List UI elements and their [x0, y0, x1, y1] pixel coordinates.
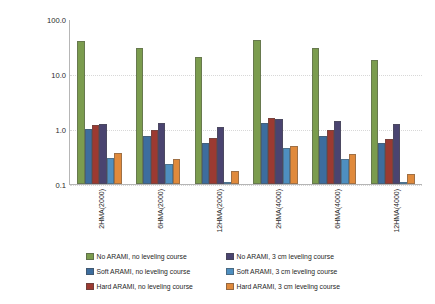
bar — [400, 182, 407, 184]
bar-group — [187, 20, 246, 184]
bar — [165, 164, 172, 184]
bar-group — [70, 20, 129, 184]
x-axis-tick-label-text: 6HMA(2000) — [157, 189, 164, 229]
bar — [261, 123, 268, 184]
bar — [151, 130, 158, 184]
bar-group — [305, 20, 364, 184]
legend-swatch-icon — [86, 283, 94, 291]
bar — [312, 48, 319, 184]
legend-swatch-icon — [226, 253, 234, 261]
legend-label: Soft ARAMI, no leveling course — [97, 268, 191, 275]
bar — [107, 158, 114, 184]
y-axis-tick-label: 10.0 — [26, 71, 66, 80]
legend: No ARAMI, no leveling courseNo ARAMI, 3 … — [86, 249, 416, 294]
bar — [327, 130, 334, 184]
bar-group — [246, 20, 305, 184]
x-axis-tick-label-text: 2HMA(4000) — [275, 189, 282, 229]
bar-groups — [70, 20, 422, 184]
x-axis-tick-label: 2HMA(4000) — [245, 187, 304, 243]
legend-swatch-icon — [86, 253, 94, 261]
legend-label: No ARAMI, 3 cm leveling course — [237, 253, 334, 260]
bar — [217, 127, 224, 184]
bar — [158, 123, 165, 184]
bar — [99, 124, 106, 184]
bar — [407, 174, 414, 184]
x-axis-tick-labels: 2HMA(2000)6HMA(2000)12HMA(2000)2HMA(4000… — [69, 187, 422, 243]
legend-swatch-icon — [86, 268, 94, 276]
bar — [371, 60, 378, 184]
y-axis-tick-label: 1.0 — [26, 126, 66, 135]
legend-item[interactable]: Hard ARAMI, no leveling course — [86, 283, 226, 291]
bar — [290, 146, 297, 184]
y-axis-tick-label: 100.0 — [26, 16, 66, 25]
bar-group — [363, 20, 422, 184]
x-axis-tick-label: 12HMA(2000) — [187, 187, 246, 243]
bar-group — [129, 20, 188, 184]
x-axis-tick-label: 6HMA(4000) — [304, 187, 363, 243]
bar — [209, 138, 216, 184]
bar — [114, 153, 121, 184]
y-axis-tick-label: 0.1 — [26, 181, 66, 190]
legend-swatch-icon — [226, 283, 234, 291]
bar — [173, 159, 180, 184]
bar — [334, 121, 341, 184]
bar — [202, 143, 209, 184]
bar — [268, 118, 275, 184]
bar — [253, 40, 260, 184]
legend-label: Soft ARAMI, 3 cm leveling course — [237, 268, 338, 275]
x-axis-tick-label-text: 2HMA(2000) — [98, 189, 105, 229]
bar — [231, 171, 238, 184]
x-axis-tick-label: 6HMA(2000) — [128, 187, 187, 243]
legend-item[interactable]: Soft ARAMI, no leveling course — [86, 268, 226, 276]
bar — [349, 154, 356, 184]
legend-swatch-icon — [226, 268, 234, 276]
bar — [136, 48, 143, 184]
legend-item[interactable]: Soft ARAMI, 3 cm leveling course — [226, 268, 416, 276]
bar — [275, 119, 282, 184]
bar — [195, 57, 202, 184]
bar — [85, 129, 92, 184]
bar-chart: Von Mises Stress @ bottom of overlay [MP… — [0, 0, 435, 304]
bar — [385, 139, 392, 184]
bar — [283, 148, 290, 184]
legend-label: Hard ARAMI, 3 cm leveling course — [237, 283, 341, 290]
legend-label: No ARAMI, no leveling course — [97, 253, 187, 260]
bar — [143, 136, 150, 184]
plot-area — [69, 20, 422, 185]
bar — [92, 125, 99, 184]
bar — [393, 124, 400, 184]
bar — [77, 41, 84, 184]
legend-item[interactable]: No ARAMI, no leveling course — [86, 253, 226, 261]
x-axis-tick-label-text: 12HMA(2000) — [216, 189, 223, 233]
x-axis-tick-label-text: 12HMA(4000) — [393, 189, 400, 233]
bar — [378, 143, 385, 184]
legend-item[interactable]: Hard ARAMI, 3 cm leveling course — [226, 283, 416, 291]
legend-item[interactable]: No ARAMI, 3 cm leveling course — [226, 253, 416, 261]
x-axis-tick-label-text: 6HMA(4000) — [334, 189, 341, 229]
x-axis-tick-label: 12HMA(4000) — [363, 187, 422, 243]
y-axis-tick-labels: 100.010.01.00.1 — [22, 20, 66, 185]
bar — [319, 136, 326, 184]
legend-label: Hard ARAMI, no leveling course — [97, 283, 193, 290]
gridline — [70, 185, 422, 186]
x-axis-tick-label: 2HMA(2000) — [69, 187, 128, 243]
bar — [224, 182, 231, 184]
bar — [341, 159, 348, 184]
